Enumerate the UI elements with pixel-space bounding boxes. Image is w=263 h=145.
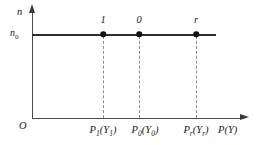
y-tick-label-n0: n0 [10, 27, 19, 41]
figure-canvas: n n0 O 1 0 r P1(Y1) P0(Y0) Pr(Yr) P(Y) [0, 0, 263, 145]
x-tick-label-p1: P1(Y1) [90, 124, 117, 138]
p1-sub: 1 [96, 129, 100, 138]
drop-line-point-1 [103, 36, 104, 118]
drop-line-point-r [196, 36, 197, 118]
x-tick-label-p0: P0(Y0) [132, 124, 159, 138]
y1-sub: 1 [109, 129, 113, 138]
data-point-marker [193, 31, 199, 37]
p0-sub: 0 [138, 129, 142, 138]
y-tick-subscript: 0 [15, 33, 19, 41]
y-axis-label: n [17, 6, 22, 17]
y0-sub: 0 [151, 129, 155, 138]
point-label-r: r [194, 14, 198, 25]
data-point-marker [100, 31, 106, 37]
yr-sub: r [202, 129, 205, 138]
x-tick-label-pr: Pr(Yr) [183, 124, 208, 138]
point-label-0: 0 [136, 14, 141, 25]
y-axis-line [32, 12, 33, 119]
constant-level-line [32, 34, 216, 36]
y-axis-arrowhead-icon [29, 4, 35, 13]
drop-line-point-0 [139, 36, 140, 118]
pr-sub: r [190, 129, 193, 138]
x-axis-line [32, 118, 244, 119]
origin-label: O [19, 120, 27, 131]
x-axis-arrowhead-icon [240, 114, 249, 120]
data-point-marker [136, 31, 142, 37]
x-axis-label: P(Y) [218, 124, 237, 135]
point-label-1: 1 [100, 14, 105, 25]
